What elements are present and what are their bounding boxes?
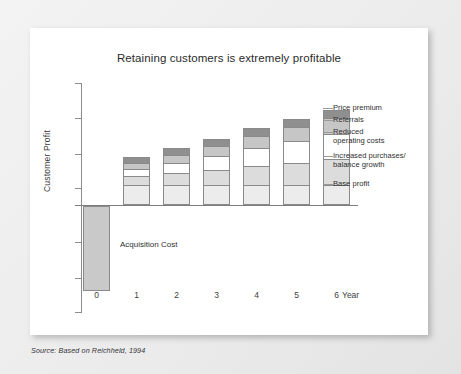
legend-item-increased-purchases: Increased purchases/ balance growth xyxy=(333,152,406,169)
segment-reduced-operating-costs xyxy=(123,169,150,176)
legend-leader-line xyxy=(323,156,333,157)
bar-year-5 xyxy=(283,119,310,205)
bar-acquisition-cost xyxy=(83,206,110,291)
segment-reduced-operating-costs xyxy=(283,141,310,163)
legend-leader-line xyxy=(323,132,333,133)
x-axis-title: Year xyxy=(342,290,359,300)
legend-item-reduced-operating-costs: Reduced operating costs xyxy=(333,128,385,145)
page-background: Retaining customers is extremely profita… xyxy=(0,0,461,374)
segment-referrals xyxy=(283,127,310,141)
bar-year-2 xyxy=(163,148,190,205)
source-note: Source: Based on Reichheld, 1994 xyxy=(31,346,145,355)
segment-base-profit xyxy=(203,185,230,205)
segment-increased-purchases xyxy=(283,163,310,185)
segment-price-premium xyxy=(203,139,230,146)
bar-year-4 xyxy=(243,128,270,205)
segment-base-profit xyxy=(123,185,150,205)
legend-leader-line xyxy=(323,184,333,185)
segment-base-profit xyxy=(243,185,270,205)
plot-area: Customer Profit Acquisition Cost xyxy=(30,28,428,335)
segment-increased-purchases xyxy=(243,166,270,185)
legend-item-base-profit: Base profit xyxy=(333,180,369,189)
segment-price-premium xyxy=(283,119,310,127)
legend-label: Price premium xyxy=(333,103,382,112)
segment-reduced-operating-costs xyxy=(163,163,190,173)
acquisition-cost-label: Acquisition Cost xyxy=(120,240,177,249)
segment-referrals xyxy=(203,146,230,156)
legend-item-referrals: Referrals xyxy=(333,116,364,125)
segment-increased-purchases xyxy=(123,176,150,185)
segment-referrals xyxy=(243,136,270,148)
x-axis-label-3: 3 xyxy=(203,290,230,300)
x-axis-label-2: 2 xyxy=(163,290,190,300)
legend-item-price-premium: Price premium xyxy=(333,104,382,113)
segment-base-profit xyxy=(283,185,310,205)
legend-leader-line xyxy=(323,120,333,121)
figure-panel: Retaining customers is extremely profita… xyxy=(30,28,428,335)
bar-year-1 xyxy=(123,157,150,205)
segment-increased-purchases xyxy=(163,173,190,185)
segment-increased-purchases xyxy=(203,170,230,185)
segment-reduced-operating-costs xyxy=(243,148,270,166)
segment-price-premium xyxy=(243,128,270,136)
x-axis-label-5: 5 xyxy=(283,290,310,300)
segment-price-premium xyxy=(163,148,190,155)
x-axis-label-0: 0 xyxy=(83,290,110,300)
bar-year-3 xyxy=(203,139,230,205)
segment-referrals xyxy=(163,155,190,163)
legend-label: Referrals xyxy=(333,115,364,124)
segment-base-profit xyxy=(163,185,190,205)
legend-label: Base profit xyxy=(333,179,369,188)
legend-label-line2: balance growth xyxy=(333,160,385,169)
legend-leader-line xyxy=(323,108,333,109)
segment-reduced-operating-costs xyxy=(203,156,230,170)
legend-label-line2: operating costs xyxy=(333,136,385,145)
x-axis-label-1: 1 xyxy=(123,290,150,300)
x-axis-label-4: 4 xyxy=(243,290,270,300)
